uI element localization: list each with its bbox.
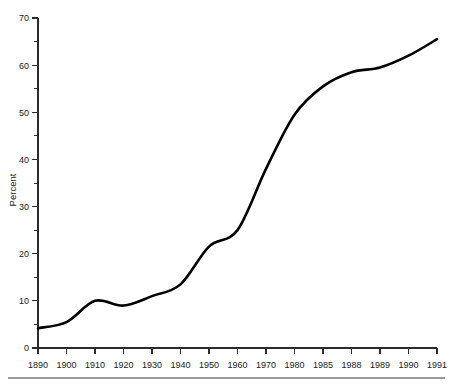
y-tick-label-10: 10	[19, 296, 29, 306]
x-tick-label-1985: 1985	[313, 360, 333, 370]
x-tick-label-1950: 1950	[199, 360, 219, 370]
x-axis-group: 1890190019101920193019401950196019701980…	[28, 348, 447, 370]
x-axis-tick-labels: 1890190019101920193019401950196019701980…	[28, 360, 447, 370]
chart-figure: 010203040506070 189019001910192019301940…	[0, 0, 453, 387]
x-tick-label-1990: 1990	[398, 360, 418, 370]
x-tick-label-1980: 1980	[284, 360, 304, 370]
x-tick-label-1960: 1960	[227, 360, 247, 370]
x-tick-label-1900: 1900	[56, 360, 76, 370]
y-tick-label-40: 40	[19, 155, 29, 165]
line-chart-plot: 010203040506070 189019001910192019301940…	[0, 0, 453, 387]
y-axis-minor-ticks	[34, 42, 38, 325]
y-axis-title-group: Percent	[7, 173, 18, 206]
data-series-line	[38, 39, 437, 328]
x-axis-major-ticks	[38, 348, 437, 354]
x-tick-label-1910: 1910	[85, 360, 105, 370]
x-tick-label-1930: 1930	[142, 360, 162, 370]
x-tick-label-1991: 1991	[427, 360, 447, 370]
footer-rule	[8, 377, 445, 379]
x-tick-label-1920: 1920	[113, 360, 133, 370]
y-tick-label-20: 20	[19, 249, 29, 259]
x-tick-label-1989: 1989	[370, 360, 390, 370]
x-tick-label-1890: 1890	[28, 360, 48, 370]
y-tick-label-50: 50	[19, 108, 29, 118]
x-tick-label-1940: 1940	[170, 360, 190, 370]
x-tick-label-1988: 1988	[341, 360, 361, 370]
y-tick-label-70: 70	[19, 13, 29, 23]
y-tick-label-60: 60	[19, 61, 29, 71]
y-axis-tick-labels: 010203040506070	[19, 13, 29, 353]
y-tick-label-30: 30	[19, 202, 29, 212]
x-tick-label-1970: 1970	[256, 360, 276, 370]
y-axis-title: Percent	[7, 173, 18, 206]
y-tick-label-0: 0	[24, 343, 29, 353]
y-axis-group: 010203040506070	[19, 13, 38, 353]
